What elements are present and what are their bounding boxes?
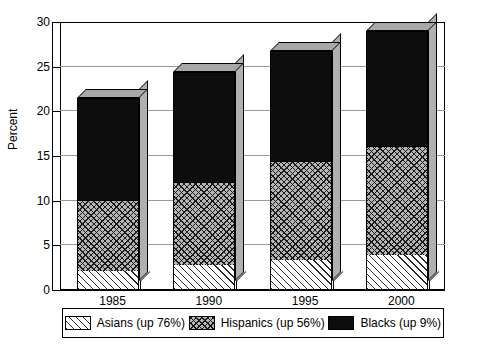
x-tick-label: 1995 — [260, 294, 350, 308]
bar-segment-asians — [174, 265, 234, 289]
legend-item-blacks[interactable]: Blacks (up 9%) — [328, 316, 441, 330]
legend-label: Hispanics (up 56%) — [221, 316, 325, 330]
y-tick-label: 10 — [37, 195, 50, 207]
bar-front-face — [173, 72, 235, 290]
bar-front-face — [270, 51, 332, 290]
y-tick-label: 0 — [43, 284, 50, 296]
bar-top-face — [270, 42, 341, 51]
legend-swatch-blacks — [328, 316, 354, 330]
bar-front-face — [77, 98, 139, 290]
y-tick-label: 30 — [37, 16, 50, 28]
bar-segment-hispanics — [367, 146, 427, 255]
bar-side-face — [332, 33, 341, 281]
y-tick-label: 20 — [37, 105, 50, 117]
bar-segment-blacks — [271, 51, 331, 162]
bar-segment-blacks — [78, 98, 138, 200]
plot-area — [60, 22, 445, 290]
bar-side-face — [139, 80, 148, 281]
bar-front-face — [366, 31, 428, 290]
y-tick-label: 25 — [37, 61, 50, 73]
bar-segment-hispanics — [271, 161, 331, 260]
bar-side-face — [428, 13, 437, 281]
legend-swatch-hispanics — [189, 316, 215, 330]
y-tick-label: 15 — [37, 150, 50, 162]
bar-side-face — [235, 54, 244, 281]
legend-item-hispanics[interactable]: Hispanics (up 56%) — [189, 316, 325, 330]
bar-segment-blacks — [367, 31, 427, 146]
bar-segment-asians — [367, 255, 427, 289]
bar-segment-hispanics — [174, 182, 234, 265]
bar-segment-blacks — [174, 72, 234, 182]
bar-top-face — [173, 63, 244, 72]
bar-top-face — [366, 22, 437, 31]
bar-2000 — [366, 22, 428, 290]
x-axis — [52, 290, 445, 291]
bar-segment-asians — [78, 271, 138, 289]
bar-1985 — [77, 89, 139, 290]
bar-1990 — [173, 63, 235, 290]
bar-segment-asians — [271, 260, 331, 289]
legend: Asians (up 76%)Hispanics (up 56%)Blacks … — [62, 308, 444, 338]
x-tick-label: 2000 — [356, 294, 446, 308]
legend-label: Asians (up 76%) — [97, 316, 185, 330]
chart-canvas: Percent 051015202530 1985199019952000 As… — [0, 0, 500, 352]
bar-1995 — [270, 42, 332, 290]
legend-item-asians[interactable]: Asians (up 76%) — [65, 316, 185, 330]
legend-swatch-asians — [65, 316, 91, 330]
bar-top-face — [77, 89, 148, 98]
x-tick-label: 1985 — [68, 294, 158, 308]
y-tick-label: 5 — [43, 239, 50, 251]
bar-segment-hispanics — [78, 200, 138, 271]
legend-label: Blacks (up 9%) — [360, 316, 441, 330]
x-tick-label: 1990 — [164, 294, 254, 308]
